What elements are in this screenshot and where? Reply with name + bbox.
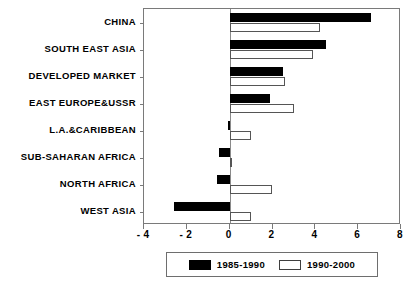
x-axis-tick-label: - 2 xyxy=(180,229,193,240)
bar xyxy=(230,40,326,49)
bar xyxy=(228,121,230,130)
plot-area xyxy=(143,8,400,224)
bar xyxy=(230,94,271,103)
bar xyxy=(230,212,251,221)
category-label: NORTH AFRICA xyxy=(0,179,136,189)
category-label: DEVELOPED MARKET xyxy=(0,71,136,81)
category-tick xyxy=(140,158,144,159)
bar xyxy=(230,67,284,76)
category-label: SUB-SAHARAN AFRICA xyxy=(0,152,136,162)
category-label: SOUTH EAST ASIA xyxy=(0,44,136,54)
bar-chart: CHINASOUTH EAST ASIADEVELOPED MARKETEAST… xyxy=(0,0,414,284)
bar xyxy=(230,131,251,140)
category-tick xyxy=(140,185,144,186)
x-axis-tick-label: 8 xyxy=(397,229,403,240)
x-axis-tick-labels: - 4- 202468 xyxy=(143,229,400,245)
legend-entry: 1990-2000 xyxy=(279,259,355,270)
category-tick xyxy=(140,23,144,24)
x-axis-tick-label: 2 xyxy=(269,229,275,240)
category-tick xyxy=(140,104,144,105)
chart-legend: 1985-1990 1990-2000 xyxy=(166,252,378,277)
bar xyxy=(230,77,286,86)
x-axis-tick-label: 4 xyxy=(311,229,317,240)
legend-swatch-icon xyxy=(189,260,211,270)
x-axis-tick-label: 6 xyxy=(354,229,360,240)
x-axis-tick-label: - 4 xyxy=(137,229,150,240)
category-label: L.A.&CARIBBEAN xyxy=(0,125,136,135)
legend-label: 1990-2000 xyxy=(307,259,355,270)
bar xyxy=(174,202,230,211)
category-tick xyxy=(140,212,144,213)
x-axis-tick-label: 0 xyxy=(226,229,232,240)
legend-entry: 1985-1990 xyxy=(189,259,265,270)
bar xyxy=(230,158,232,167)
category-tick xyxy=(140,131,144,132)
category-label: EAST EUROPE&USSR xyxy=(0,98,136,108)
legend-label: 1985-1990 xyxy=(217,259,265,270)
bar xyxy=(230,185,273,194)
category-label: CHINA xyxy=(0,17,136,27)
bar xyxy=(230,13,371,22)
category-label: WEST ASIA xyxy=(0,206,136,216)
bar xyxy=(217,175,230,184)
category-tick xyxy=(140,77,144,78)
bar xyxy=(219,148,230,157)
legend-swatch-icon xyxy=(279,260,301,270)
category-tick xyxy=(140,50,144,51)
category-axis: CHINASOUTH EAST ASIADEVELOPED MARKETEAST… xyxy=(0,8,136,224)
bar xyxy=(230,104,294,113)
bar xyxy=(230,50,314,59)
bar xyxy=(230,23,320,32)
